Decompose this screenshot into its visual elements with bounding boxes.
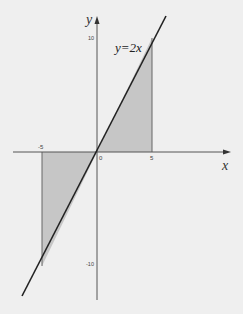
- x-axis-label: x: [221, 158, 229, 173]
- y-axis-arrow-icon: [95, 16, 100, 24]
- tick-label-y-neg10: -10: [86, 261, 94, 267]
- tick-label-y-10: 10: [88, 35, 94, 41]
- function-label: y=2x: [113, 40, 142, 55]
- graph-canvas: y=2x x y 0 5 -5 10 -10: [0, 0, 243, 314]
- tick-label-x-5: 5: [150, 155, 154, 161]
- function-graph: y=2x x y 0 5 -5 10 -10: [0, 0, 243, 314]
- tick-label-x-neg5: -5: [38, 144, 44, 150]
- origin-label: 0: [99, 155, 103, 161]
- y-axis-label: y: [84, 12, 93, 27]
- shaded-region-negative: [42, 152, 97, 266]
- x-axis-arrow-icon: [223, 150, 231, 155]
